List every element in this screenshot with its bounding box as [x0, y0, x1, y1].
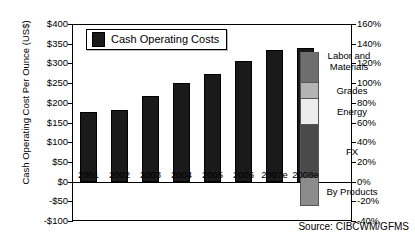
bar-column: [266, 25, 283, 220]
bar-2004: [173, 83, 190, 181]
segment-labor-and-materials: [301, 52, 318, 84]
y-tick-label: $300: [47, 58, 68, 68]
segment-label-fx: FX: [322, 147, 382, 158]
legend-label-cash-operating-costs: Cash Operating Costs: [111, 33, 219, 46]
segment-energy: [301, 99, 318, 126]
bar-2007e: [266, 50, 283, 181]
y-tick-label: $200: [47, 98, 68, 108]
segment-label-labor-and-materials: Labor and Materials: [322, 51, 376, 72]
y-tick-label: $250: [47, 78, 68, 88]
bar-column: [173, 25, 190, 220]
bar-2005: [204, 74, 221, 182]
x-tick-label-2004: 2004: [166, 169, 197, 181]
y-tick-label: -$100: [44, 216, 68, 226]
x-tick-label-2008e: 2008e: [290, 169, 321, 181]
secondary-y-tick-label: 140%: [357, 39, 381, 49]
bar-column: [111, 25, 128, 220]
segment-grades: [301, 83, 318, 99]
segment-label-by-products: By Products: [322, 187, 382, 198]
segment-label-grades: Grades: [322, 86, 382, 97]
x-tick-label-2001: 2001: [73, 169, 104, 181]
bar-column: [204, 25, 221, 220]
y-tick-label: $350: [47, 39, 68, 49]
legend-swatch-cash-operating-costs: [92, 32, 105, 47]
chart-figure: Cash Operating Cost Per Ounce (US$) $400…: [0, 0, 415, 236]
bar-column: [80, 25, 97, 220]
x-tick-label-2007e: 2007e: [259, 169, 290, 181]
x-tick-label-2003: 2003: [135, 169, 166, 181]
y-tick-label: $50: [52, 157, 68, 167]
y-tick-label: $0: [57, 177, 68, 187]
x-tick-label-2006: 2006: [228, 169, 259, 181]
y-tick-label: -$50: [49, 196, 68, 206]
y-tick-label: $150: [47, 118, 68, 128]
y-tick-label: $400: [47, 19, 68, 29]
secondary-y-tick-label: -20%: [357, 196, 379, 206]
bar-column: [142, 25, 159, 220]
x-tick-label-2002: 2002: [104, 169, 135, 181]
y-axis-tick-labels: $400$350$300$250$200$150$100$50$0-$50-$1…: [22, 24, 68, 221]
bar-2006: [235, 61, 252, 181]
cost-breakdown-stacked-bar: [300, 52, 319, 207]
segment-label-energy: Energy: [322, 107, 382, 118]
source-note: Source: CIBCWM/GFMS: [298, 221, 409, 233]
chart-legend: Cash Operating Costs: [86, 29, 227, 50]
secondary-y-tick-label: 20%: [357, 157, 376, 167]
x-tick-label-2005: 2005: [197, 169, 228, 181]
secondary-y-tick-label: 60%: [357, 118, 376, 128]
y-tick-label: $100: [47, 137, 68, 147]
bar-column: [235, 25, 252, 220]
y-tick-mark: [68, 221, 73, 222]
secondary-y-tick-label: 160%: [357, 19, 381, 29]
x-axis-tick-labels: 2001200220032004200520062007e2008e: [73, 169, 351, 183]
